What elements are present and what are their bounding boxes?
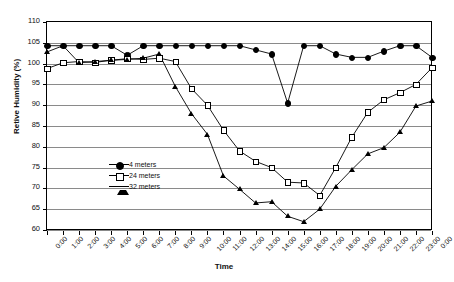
x-tick-label: 21:00	[392, 235, 409, 252]
data-point-marker	[156, 51, 162, 56]
series-line	[47, 58, 432, 195]
x-tick-label: 2:00	[86, 235, 101, 250]
data-point-marker	[397, 90, 403, 96]
x-tick-label: 12:00	[248, 235, 265, 252]
data-point-marker	[189, 86, 195, 92]
legend-marker-filled-triangle-icon	[109, 181, 129, 192]
data-point-marker	[301, 180, 307, 186]
y-tick-label: 60	[0, 225, 40, 233]
data-point-marker	[333, 184, 339, 189]
data-point-marker	[76, 60, 82, 65]
x-tick-label: 14:00	[280, 235, 297, 252]
x-tick-label: 0:00	[439, 235, 454, 250]
x-tick-mark	[352, 231, 353, 235]
data-point-marker	[44, 66, 50, 72]
x-tick-label: 18:00	[344, 235, 361, 252]
y-axis-title: Retive Humidity (%)	[12, 37, 21, 157]
x-tick-mark	[416, 231, 417, 235]
data-point-marker	[333, 51, 339, 57]
data-point-marker	[237, 148, 243, 154]
x-tick-mark	[400, 231, 401, 235]
y-tick-label: 110	[0, 17, 40, 25]
data-point-marker	[60, 43, 66, 48]
y-tick-label: 95	[0, 79, 40, 87]
data-point-marker	[429, 98, 435, 103]
x-tick-mark	[368, 231, 369, 235]
plot-area: 4 meters 24 meters 32 meters	[46, 21, 432, 230]
data-point-marker	[173, 59, 179, 65]
data-point-marker	[140, 43, 146, 49]
data-point-marker	[285, 213, 291, 218]
data-point-marker	[188, 111, 194, 116]
data-point-marker	[60, 60, 66, 66]
x-tick-mark	[256, 231, 257, 235]
data-point-marker	[172, 84, 178, 89]
x-tick-label: 16:00	[312, 235, 329, 252]
data-point-marker	[205, 102, 211, 108]
data-point-marker	[349, 134, 355, 140]
legend-item-32-meters: 32 meters	[109, 181, 183, 192]
data-point-marker	[397, 129, 403, 134]
data-point-marker	[429, 55, 435, 61]
x-axis-title: Time	[0, 262, 448, 271]
x-tick-mark	[304, 231, 305, 235]
x-tick-label: 20:00	[376, 235, 393, 252]
data-point-marker	[429, 65, 435, 71]
x-tick-mark	[240, 231, 241, 235]
data-point-marker	[220, 173, 226, 178]
data-point-marker	[413, 103, 419, 108]
x-tick-mark	[47, 231, 48, 235]
x-tick-mark	[384, 231, 385, 235]
series-line	[47, 46, 432, 222]
data-point-marker	[76, 43, 82, 49]
data-point-marker	[140, 55, 146, 60]
data-point-marker	[124, 57, 130, 62]
data-point-marker	[397, 43, 403, 49]
data-point-marker	[237, 186, 243, 191]
data-point-marker	[413, 82, 419, 88]
x-tick-label: 8:00	[182, 235, 197, 250]
y-tick-label: 80	[0, 142, 40, 150]
x-tick-label: 4:00	[118, 235, 133, 250]
data-point-marker	[108, 57, 114, 62]
x-tick-mark	[223, 231, 224, 235]
data-point-marker	[381, 145, 387, 150]
x-tick-label: 15:00	[296, 235, 313, 252]
data-point-marker	[365, 151, 371, 156]
data-point-marker	[285, 179, 291, 185]
x-tick-label: 7:00	[166, 235, 181, 250]
data-point-marker	[333, 165, 339, 171]
series-lines	[47, 22, 433, 231]
x-tick-mark	[336, 231, 337, 235]
data-point-marker	[253, 159, 259, 165]
y-tick-label: 100	[0, 59, 40, 67]
x-tick-label: 5:00	[134, 235, 149, 250]
data-point-marker	[413, 43, 419, 49]
x-tick-label: 10:00	[216, 235, 233, 252]
y-tick-label: 70	[0, 183, 40, 191]
legend-label: 24 meters	[129, 170, 160, 181]
data-point-marker	[92, 43, 98, 49]
data-point-marker	[317, 193, 323, 199]
x-tick-label: 11:00	[231, 235, 248, 252]
y-tick-label: 90	[0, 100, 40, 108]
x-tick-label: 3:00	[102, 235, 117, 250]
data-point-marker	[365, 109, 371, 115]
data-point-marker	[156, 55, 162, 61]
legend-label: 32 meters	[129, 181, 160, 192]
data-point-marker	[317, 206, 323, 211]
legend-marker-filled-circle-icon	[109, 159, 129, 170]
y-tick-label: 105	[0, 38, 40, 46]
data-point-marker	[221, 127, 227, 133]
data-point-marker	[92, 59, 98, 64]
x-tick-label: 13:00	[264, 235, 281, 252]
data-point-marker	[381, 97, 387, 103]
x-tick-mark	[288, 231, 289, 235]
x-tick-label: 22:00	[408, 235, 425, 252]
y-tick-label: 85	[0, 121, 40, 129]
series-line	[47, 46, 432, 103]
x-tick-label: 19:00	[360, 235, 377, 252]
x-tick-mark	[320, 231, 321, 235]
legend-label: 4 meters	[129, 159, 156, 170]
